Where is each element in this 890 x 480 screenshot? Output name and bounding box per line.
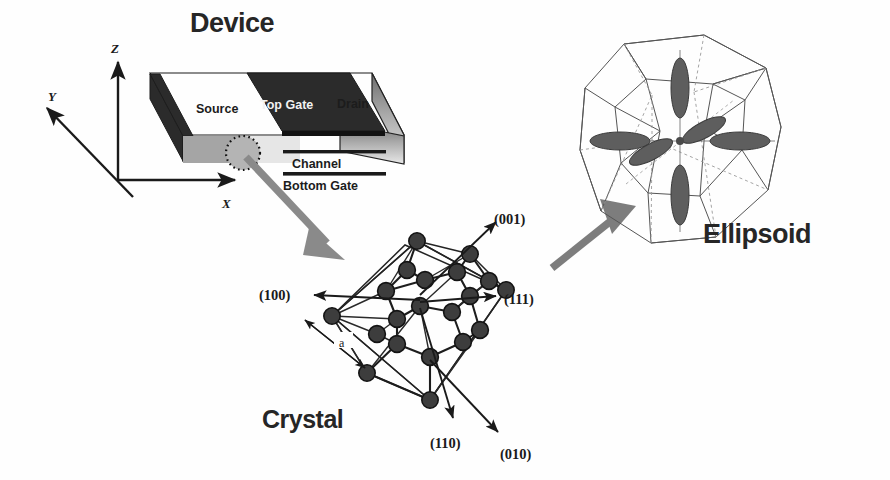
valley-ellipsoid-left: [590, 132, 650, 150]
ellipsoid-panel: Ellipsoid: [0, 0, 890, 480]
page-title-ellipsoid: Ellipsoid: [703, 219, 811, 249]
figure-canvas: Device Z X Y: [0, 0, 890, 480]
valley-ellipsoid-right: [710, 132, 770, 150]
zone-center-gamma: [676, 137, 684, 145]
valley-ellipsoid-up: [671, 58, 689, 118]
valley-ellipsoids: [590, 58, 770, 225]
valley-ellipsoid-down: [671, 165, 689, 225]
